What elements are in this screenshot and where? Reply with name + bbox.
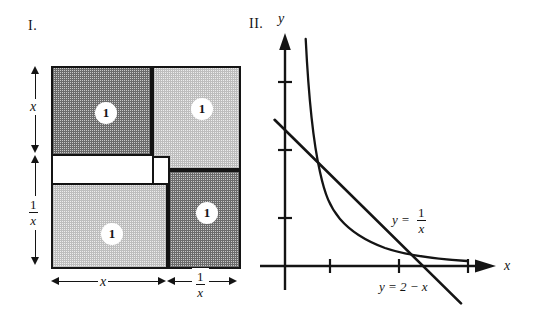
fraction-denominator: x — [416, 222, 427, 235]
annotation-line: y = 2 − x — [379, 279, 428, 295]
fraction-denominator: x — [195, 286, 206, 299]
area-badge: 1 — [101, 223, 123, 245]
area-badge: 1 — [196, 202, 218, 224]
dimension-label-one-over-x-vertical: 1 x — [25, 196, 42, 230]
figure-two-panel: II. y x y = 1 — [246, 0, 544, 323]
area-badge: 1 — [191, 98, 213, 120]
figure-one-panel: I. 1 1 1 1 x 1 x — [0, 0, 272, 323]
curve-line — [275, 120, 461, 304]
dimension-label-x-horizontal: x — [98, 274, 108, 290]
figure-one-label: I. — [28, 18, 37, 34]
dimension-label-x-vertical: x — [28, 99, 38, 115]
annotation-reciprocal: y = 1 x — [392, 206, 427, 236]
square-cell-top-left: 1 — [51, 66, 152, 156]
fraction-denominator: x — [28, 214, 39, 227]
curve-reciprocal — [306, 39, 467, 261]
fraction-numerator: 1 — [195, 270, 206, 283]
square-cell-bottom-left: 1 — [51, 183, 168, 269]
y-axis-label: y — [278, 11, 284, 27]
fraction-numerator: 1 — [416, 206, 427, 219]
x-axis-label: x — [504, 258, 510, 274]
y-axis — [278, 33, 292, 290]
annotation-reciprocal-prefix: y = — [392, 212, 410, 227]
square-cell-bottom-right: 1 — [168, 170, 241, 269]
square-cell-top-right: 1 — [152, 66, 241, 170]
dimension-label-one-over-x-horizontal: 1 x — [192, 268, 209, 302]
fraction-numerator: 1 — [28, 198, 39, 211]
graph-svg — [246, 0, 544, 323]
dissected-square: 1 1 1 1 — [51, 66, 237, 265]
square-cell-center — [152, 156, 170, 185]
area-badge: 1 — [95, 102, 117, 124]
